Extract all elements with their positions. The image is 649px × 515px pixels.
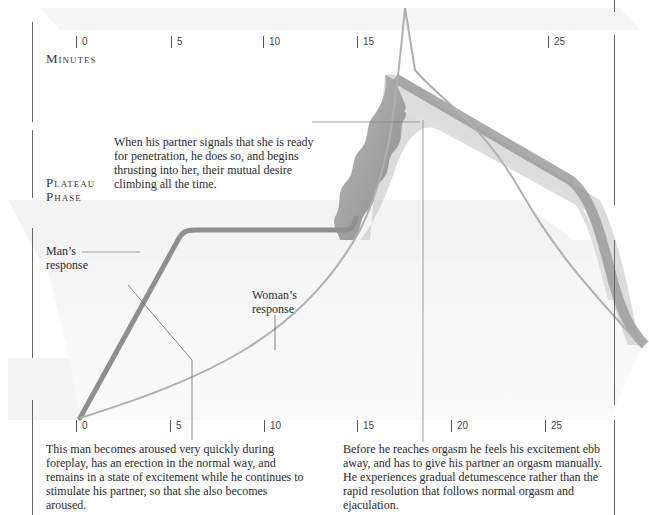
- top-tick-25: 25: [548, 36, 565, 48]
- caption-left: This man becomes aroused very quickly du…: [46, 442, 308, 512]
- bottom-tick-0: 0: [76, 420, 88, 432]
- bottom-tick-10: 10: [264, 420, 281, 432]
- right-rule-top: [614, 0, 615, 12]
- lower-plane: [10, 240, 640, 420]
- top-tick-15: 15: [357, 36, 374, 48]
- bottom-tick-15: 15: [357, 420, 374, 432]
- left-rule-lower: [32, 228, 33, 358]
- right-rule-bottom: [614, 420, 615, 515]
- left-rule-middle: [32, 130, 33, 198]
- man-response-label: Man’s response: [46, 244, 88, 272]
- top-tick-5: 5: [171, 36, 183, 48]
- right-rule-lower: [614, 240, 615, 405]
- bottom-tick-20: 20: [451, 420, 468, 432]
- left-rule-bottom: [32, 400, 33, 515]
- left-rule-top: [32, 22, 33, 122]
- top-tick-10: 10: [263, 36, 280, 48]
- woman-response-label: Woman’s response: [252, 288, 297, 316]
- chart-graphic: [0, 0, 649, 515]
- minutes-axis-label: Minutes: [46, 52, 97, 66]
- bottom-tick-25: 25: [545, 420, 562, 432]
- phase-label-line1: Plateau: [46, 176, 95, 190]
- right-rule-mid: [614, 35, 615, 205]
- top-tick-0: 0: [76, 36, 88, 48]
- phase-description: When his partner signals that she is rea…: [114, 135, 314, 191]
- top-plane: [40, 8, 640, 30]
- caption-right: Before he reaches orgasm he feels his ex…: [343, 442, 605, 512]
- bottom-tick-5: 5: [170, 420, 182, 432]
- phase-label-line2: Phase: [46, 190, 95, 204]
- phase-label: Plateau Phase: [46, 176, 95, 204]
